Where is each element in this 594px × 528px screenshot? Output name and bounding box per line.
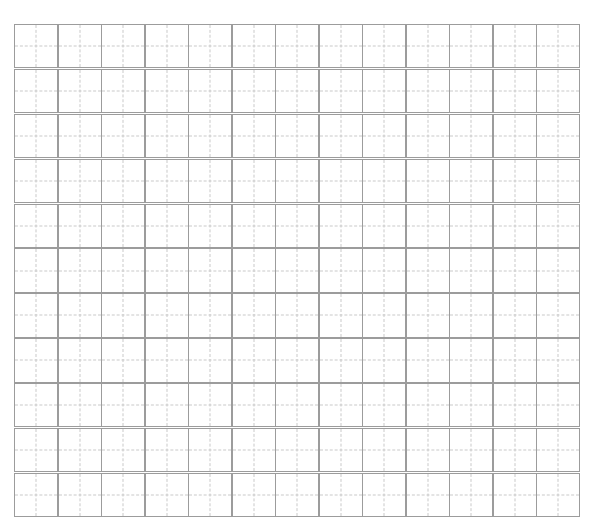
grid-cell[interactable] — [449, 293, 493, 337]
grid-cell[interactable] — [493, 159, 537, 203]
grid-cell[interactable] — [275, 248, 319, 292]
grid-cell[interactable] — [275, 428, 319, 472]
grid-cell[interactable] — [493, 114, 537, 158]
grid-cell[interactable] — [493, 24, 537, 68]
grid-cell[interactable] — [58, 383, 102, 427]
grid-cell[interactable] — [14, 293, 58, 337]
grid-cell[interactable] — [275, 69, 319, 113]
grid-cell[interactable] — [449, 24, 493, 68]
grid-cell[interactable] — [101, 159, 145, 203]
grid-cell[interactable] — [536, 69, 580, 113]
grid-cell[interactable] — [58, 24, 102, 68]
grid-cell[interactable] — [319, 383, 363, 427]
grid-cell[interactable] — [406, 473, 450, 517]
grid-cell[interactable] — [319, 159, 363, 203]
grid-cell[interactable] — [275, 204, 319, 248]
grid-cell[interactable] — [101, 338, 145, 382]
grid-cell[interactable] — [319, 428, 363, 472]
grid-cell[interactable] — [449, 114, 493, 158]
grid-cell[interactable] — [406, 338, 450, 382]
grid-cell[interactable] — [362, 338, 406, 382]
grid-cell[interactable] — [14, 248, 58, 292]
grid-cell[interactable] — [58, 338, 102, 382]
grid-cell[interactable] — [145, 204, 189, 248]
grid-cell[interactable] — [319, 204, 363, 248]
grid-cell[interactable] — [14, 473, 58, 517]
grid-cell[interactable] — [145, 293, 189, 337]
grid-cell[interactable] — [319, 473, 363, 517]
grid-cell[interactable] — [232, 114, 276, 158]
grid-cell[interactable] — [536, 338, 580, 382]
grid-cell[interactable] — [536, 248, 580, 292]
grid-cell[interactable] — [406, 293, 450, 337]
grid-cell[interactable] — [493, 428, 537, 472]
grid-cell[interactable] — [101, 24, 145, 68]
grid-cell[interactable] — [493, 338, 537, 382]
grid-cell[interactable] — [362, 293, 406, 337]
grid-cell[interactable] — [362, 473, 406, 517]
grid-cell[interactable] — [232, 383, 276, 427]
grid-cell[interactable] — [14, 24, 58, 68]
grid-cell[interactable] — [536, 293, 580, 337]
grid-cell[interactable] — [188, 69, 232, 113]
grid-cell[interactable] — [362, 24, 406, 68]
grid-cell[interactable] — [101, 114, 145, 158]
grid-cell[interactable] — [275, 383, 319, 427]
grid-cell[interactable] — [275, 114, 319, 158]
grid-cell[interactable] — [406, 24, 450, 68]
grid-cell[interactable] — [14, 204, 58, 248]
grid-cell[interactable] — [362, 383, 406, 427]
grid-cell[interactable] — [145, 69, 189, 113]
grid-cell[interactable] — [536, 204, 580, 248]
grid-cell[interactable] — [58, 204, 102, 248]
grid-cell[interactable] — [232, 428, 276, 472]
grid-cell[interactable] — [232, 69, 276, 113]
grid-cell[interactable] — [232, 248, 276, 292]
grid-cell[interactable] — [58, 159, 102, 203]
grid-cell[interactable] — [232, 159, 276, 203]
grid-cell[interactable] — [145, 114, 189, 158]
grid-cell[interactable] — [362, 159, 406, 203]
grid-cell[interactable] — [493, 293, 537, 337]
grid-cell[interactable] — [362, 428, 406, 472]
grid-cell[interactable] — [145, 428, 189, 472]
grid-cell[interactable] — [362, 204, 406, 248]
grid-cell[interactable] — [58, 473, 102, 517]
grid-cell[interactable] — [362, 248, 406, 292]
grid-cell[interactable] — [145, 24, 189, 68]
grid-cell[interactable] — [449, 69, 493, 113]
grid-cell[interactable] — [275, 293, 319, 337]
grid-cell[interactable] — [319, 338, 363, 382]
grid-cell[interactable] — [406, 69, 450, 113]
grid-cell[interactable] — [14, 383, 58, 427]
grid-cell[interactable] — [536, 114, 580, 158]
grid-cell[interactable] — [449, 248, 493, 292]
grid-cell[interactable] — [536, 428, 580, 472]
grid-cell[interactable] — [101, 69, 145, 113]
grid-cell[interactable] — [406, 159, 450, 203]
grid-cell[interactable] — [493, 248, 537, 292]
grid-cell[interactable] — [319, 69, 363, 113]
grid-cell[interactable] — [449, 204, 493, 248]
grid-cell[interactable] — [493, 473, 537, 517]
grid-cell[interactable] — [232, 204, 276, 248]
grid-cell[interactable] — [232, 473, 276, 517]
grid-cell[interactable] — [493, 69, 537, 113]
grid-cell[interactable] — [449, 338, 493, 382]
grid-cell[interactable] — [188, 428, 232, 472]
grid-cell[interactable] — [101, 383, 145, 427]
grid-cell[interactable] — [188, 248, 232, 292]
grid-cell[interactable] — [406, 204, 450, 248]
grid-cell[interactable] — [362, 69, 406, 113]
grid-cell[interactable] — [188, 383, 232, 427]
grid-cell[interactable] — [406, 114, 450, 158]
grid-cell[interactable] — [101, 473, 145, 517]
grid-cell[interactable] — [449, 428, 493, 472]
grid-cell[interactable] — [319, 24, 363, 68]
grid-cell[interactable] — [275, 24, 319, 68]
grid-cell[interactable] — [406, 248, 450, 292]
grid-cell[interactable] — [145, 159, 189, 203]
grid-cell[interactable] — [58, 428, 102, 472]
grid-cell[interactable] — [14, 69, 58, 113]
grid-cell[interactable] — [275, 159, 319, 203]
